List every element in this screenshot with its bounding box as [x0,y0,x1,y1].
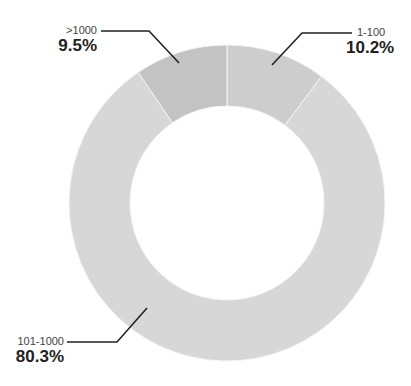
label-percent: 9.5% [58,37,97,54]
label-1-100: 1-100 10.2% [346,27,394,56]
label-percent: 10.2% [346,39,394,56]
label-101-1000: 101-1000 80.3% [16,336,64,365]
slice-101-1000 [69,72,385,361]
donut-chart [0,0,411,386]
label-category: 1-100 [346,27,394,38]
donut-slices [69,45,385,361]
label-category: >1000 [58,25,97,36]
label-gt-1000: >1000 9.5% [58,25,97,54]
label-percent: 80.3% [16,348,64,365]
label-category: 101-1000 [16,336,64,347]
